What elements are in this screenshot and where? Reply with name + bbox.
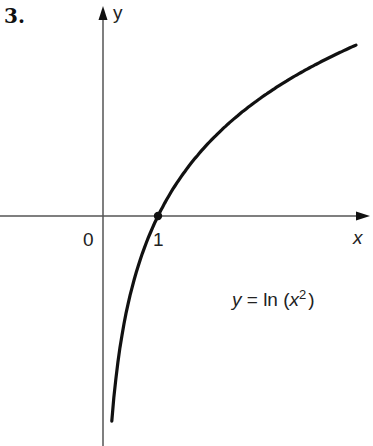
equation-eq: = ln ( bbox=[242, 289, 290, 310]
graph-canvas bbox=[0, 0, 373, 446]
equation-label: y = ln (x2) bbox=[232, 287, 315, 311]
curve-ln-x-squared bbox=[112, 45, 356, 421]
y-axis-label: y bbox=[113, 2, 123, 24]
x-axis-arrow-icon bbox=[356, 212, 370, 221]
equation-lhs: y bbox=[232, 289, 242, 310]
y-axis-arrow-icon bbox=[99, 6, 108, 20]
equation-var: x bbox=[290, 289, 300, 310]
x-tick-label-1: 1 bbox=[153, 229, 164, 251]
point-1-0 bbox=[154, 212, 162, 220]
equation-close: ) bbox=[308, 289, 314, 310]
origin-label: 0 bbox=[83, 229, 94, 251]
x-axis-label: x bbox=[353, 227, 363, 249]
equation-sup: 2 bbox=[299, 287, 306, 302]
